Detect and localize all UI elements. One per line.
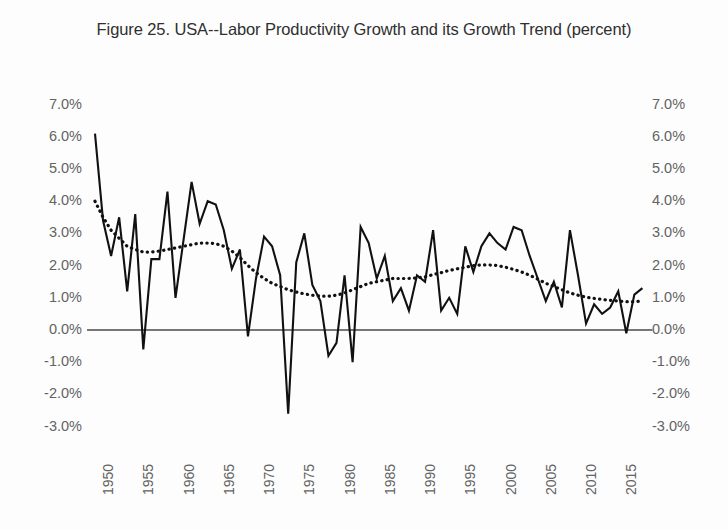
chart-plot-area xyxy=(0,0,728,530)
y-axis-left-tick-9: -2.0% xyxy=(0,386,82,401)
y-axis-right-tick-0: 7.0% xyxy=(652,97,685,112)
x-axis-tick-10: 2000 xyxy=(504,464,518,495)
y-axis-left-tick-2: 5.0% xyxy=(0,161,82,176)
y-axis-left-tick-3: 4.0% xyxy=(0,193,82,208)
productivity-growth-chart xyxy=(0,0,728,530)
x-axis-tick-1: 1955 xyxy=(141,464,155,495)
y-axis-right-tick-2: 5.0% xyxy=(652,161,685,176)
x-axis-tick-13: 2015 xyxy=(624,464,638,495)
y-axis-right-tick-6: 1.0% xyxy=(652,290,685,305)
y-axis-left-tick-7: 0.0% xyxy=(0,322,82,337)
x-axis-tick-0: 1950 xyxy=(101,464,115,495)
figure-container: Figure 25. USA--Labor Productivity Growt… xyxy=(0,0,728,530)
y-axis-left-tick-5: 2.0% xyxy=(0,258,82,273)
y-axis-left-tick-1: 6.0% xyxy=(0,129,82,144)
x-axis-tick-3: 1965 xyxy=(222,464,236,495)
y-axis-right-tick-1: 6.0% xyxy=(652,129,685,144)
y-axis-left-tick-6: 1.0% xyxy=(0,290,82,305)
x-axis-tick-12: 2010 xyxy=(584,464,598,495)
x-axis-tick-2: 1960 xyxy=(182,464,196,495)
x-axis-tick-5: 1975 xyxy=(302,464,316,495)
x-axis-tick-7: 1985 xyxy=(383,464,397,495)
y-axis-right-tick-5: 2.0% xyxy=(652,258,685,273)
labor-productivity-growth-series xyxy=(95,134,642,414)
y-axis-left-tick-4: 3.0% xyxy=(0,225,82,240)
y-axis-right-tick-4: 3.0% xyxy=(652,225,685,240)
y-axis-right-tick-8: -1.0% xyxy=(652,354,690,369)
y-axis-left-tick-10: -3.0% xyxy=(0,419,82,434)
x-axis-tick-9: 1995 xyxy=(463,464,477,495)
y-axis-right-tick-9: -2.0% xyxy=(652,386,690,401)
x-axis-tick-6: 1980 xyxy=(343,464,357,495)
x-axis-tick-11: 2005 xyxy=(544,464,558,495)
y-axis-right-tick-3: 4.0% xyxy=(652,193,685,208)
x-axis-tick-8: 1990 xyxy=(423,464,437,495)
x-axis-tick-4: 1970 xyxy=(262,464,276,495)
y-axis-left-tick-8: -1.0% xyxy=(0,354,82,369)
y-axis-right-tick-7: 0.0% xyxy=(652,322,685,337)
y-axis-left-tick-0: 7.0% xyxy=(0,97,82,112)
y-axis-right-tick-10: -3.0% xyxy=(652,419,690,434)
